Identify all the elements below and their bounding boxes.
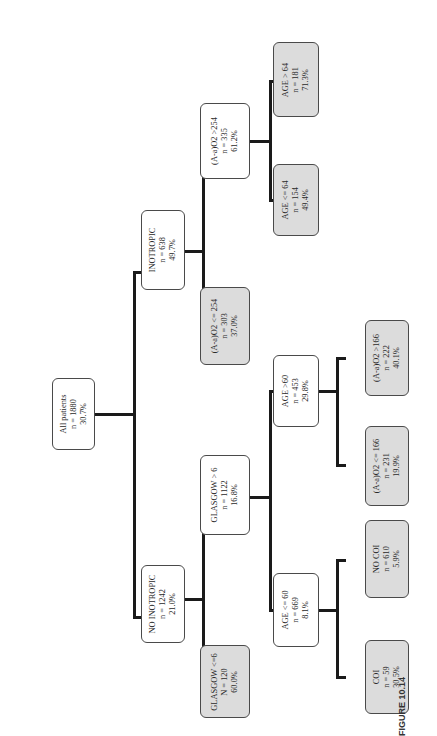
- node-glasgow-le6-label: GLASGOW <=6: [210, 653, 220, 710]
- edge-to-coi: [336, 676, 346, 679]
- node-root-n: n = 1880: [69, 395, 79, 434]
- edge-to-aao2-gt166: [336, 357, 346, 360]
- node-aao2-le166-n: n = 231: [382, 439, 392, 494]
- node-coi-n: n = 59: [382, 666, 392, 688]
- node-aao2-le254: (A-a)O2 <= 254n = 30337.0%: [200, 287, 250, 365]
- node-age-gt60-pct: 29.8%: [301, 375, 311, 407]
- edge-glasgow-gt6-trunk: [249, 496, 271, 499]
- node-inotropic-n: n = 638: [158, 228, 168, 273]
- node-age-le64-n: n = 154: [291, 180, 301, 219]
- edge-age-le60-trunk: [318, 609, 338, 612]
- node-age-le64: AGE <= 64n = 15449.4%: [273, 164, 319, 236]
- node-aao2-le254-label: (A-a)O2 <= 254: [210, 299, 220, 354]
- edge-age64-bus: [269, 80, 272, 202]
- node-age-gt64: AGE > 64n = 18171.3%: [273, 42, 319, 117]
- node-age-le64-label: AGE <= 64: [281, 180, 291, 219]
- node-age-le64-pct: 49.4%: [301, 180, 311, 219]
- node-aao2-gt166-n: n = 222: [382, 334, 392, 382]
- node-aao2-gt166-label: (A-a)O2 >166: [372, 334, 382, 382]
- node-glasgow-le6-n: N = 120: [220, 653, 230, 710]
- node-aao2-le166-label: (A-a)O2 <= 166: [372, 439, 382, 494]
- edge-no-inotropic-trunk: [184, 598, 204, 601]
- node-age-le60-label: AGE <= 60: [281, 590, 291, 629]
- edge-age-gt60-trunk: [318, 390, 338, 393]
- node-no-coi-n: n = 610: [382, 545, 392, 574]
- edge-coi-bus: [336, 559, 339, 679]
- node-glasgow-gt6: GLASGOW > 6n = 112216.8%: [200, 455, 250, 535]
- node-age-gt60: AGE >60n = 45329.8%: [273, 355, 319, 427]
- node-aao2-gt254: (A-a)O2 >254n = 33561.2%: [200, 103, 250, 179]
- node-no-inotropic: NO INOTROPICn = 124221.0%: [141, 565, 185, 643]
- node-aao2-gt254-label: (A-a)O2 >254: [210, 117, 220, 165]
- edge-age60-bus: [269, 390, 272, 612]
- edge-to-aao2-le166: [336, 464, 346, 467]
- node-glasgow-le6: GLASGOW <=6N = 12060.0%: [200, 645, 250, 718]
- edge-inotropic-trunk: [184, 250, 204, 253]
- node-aao2-gt254-pct: 61.2%: [230, 117, 240, 165]
- node-root-label: All patients: [59, 395, 69, 434]
- node-root-pct: 30.7%: [79, 395, 89, 434]
- node-glasgow-gt6-pct: 16.8%: [230, 468, 240, 523]
- node-glasgow-le6-pct: 60.0%: [230, 653, 240, 710]
- node-no-coi: NO COIn = 6105.9%: [365, 520, 409, 598]
- node-age-gt60-n: n = 453: [291, 375, 301, 407]
- edge-aao2-166-bus: [336, 357, 339, 467]
- node-no-inotropic-label: NO INOTROPIC: [148, 575, 158, 634]
- edge-aao2-gt254-trunk: [249, 140, 271, 143]
- node-inotropic-label: INOTROPIC: [148, 228, 158, 273]
- node-no-coi-label: NO COI: [372, 545, 382, 574]
- node-root: All patientsn = 188030.7%: [52, 378, 95, 450]
- node-aao2-gt254-n: n = 335: [220, 117, 230, 165]
- node-no-inotropic-pct: 21.0%: [168, 575, 178, 634]
- node-inotropic-pct: 49.7%: [168, 228, 178, 273]
- node-inotropic: INOTROPICn = 63849.7%: [141, 210, 185, 290]
- node-no-inotropic-n: n = 1242: [158, 575, 168, 634]
- node-aao2-gt166-pct: 40.1%: [392, 334, 402, 382]
- node-age-gt64-n: n = 181: [291, 62, 301, 97]
- node-age-gt64-pct: 71.3%: [301, 62, 311, 97]
- node-age-le60-pct: 8.1%: [301, 590, 311, 629]
- node-age-le60-n: n = 669: [291, 590, 301, 629]
- node-age-le60: AGE <= 60n = 6698.1%: [273, 573, 319, 647]
- edge-level1-bus: [133, 271, 136, 619]
- node-no-coi-pct: 5.9%: [392, 545, 402, 574]
- node-glasgow-gt6-label: GLASGOW > 6: [210, 468, 220, 523]
- edge-root-trunk: [94, 413, 134, 416]
- node-coi-label: COI: [372, 666, 382, 688]
- node-aao2-gt166: (A-a)O2 >166n = 22240.1%: [365, 320, 409, 396]
- node-glasgow-gt6-n: n = 1122: [220, 468, 230, 523]
- node-aao2-le166: (A-a)O2 <= 166n = 23119.9%: [365, 426, 409, 506]
- node-aao2-le166-pct: 19.9%: [392, 439, 402, 494]
- figure-caption: FIGURE 10.14: [397, 677, 407, 736]
- node-aao2-le254-n: n = 303: [220, 299, 230, 354]
- node-age-gt60-label: AGE >60: [281, 375, 291, 407]
- node-aao2-le254-pct: 37.0%: [230, 299, 240, 354]
- edge-to-no-coi: [336, 559, 346, 562]
- node-age-gt64-label: AGE > 64: [281, 62, 291, 97]
